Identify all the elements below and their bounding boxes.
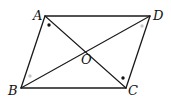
center-label-o: O	[81, 52, 92, 67]
angle-mark-c-dot	[121, 76, 124, 79]
parallelogram-diagram: A D B C O	[0, 0, 171, 104]
angle-mark-b-dot	[28, 74, 31, 77]
angle-mark-d-dot	[140, 24, 143, 27]
vertex-label-c: C	[128, 83, 138, 98]
vertex-label-b: B	[7, 83, 18, 98]
vertex-label-a: A	[32, 8, 42, 23]
vertex-label-d: D	[152, 8, 164, 23]
angle-mark-a-dot	[47, 23, 50, 26]
